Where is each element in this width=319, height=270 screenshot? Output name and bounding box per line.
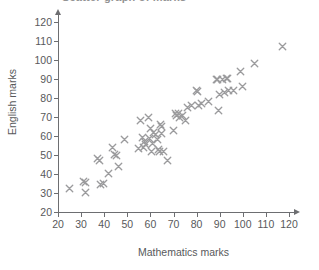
y-tick-label: 120 xyxy=(0,17,52,28)
x-tick-mark xyxy=(127,213,128,217)
x-tick-mark xyxy=(197,213,198,217)
y-tick-label: 40 xyxy=(0,169,52,180)
x-tick-mark xyxy=(289,213,290,217)
x-tick-label: 120 xyxy=(274,219,304,230)
chart-title-cropped: Scatter graph of marks xyxy=(62,0,186,3)
x-tick-mark xyxy=(174,213,175,217)
x-axis-line xyxy=(58,212,296,213)
x-tick-mark xyxy=(150,213,151,217)
x-tick-mark xyxy=(58,213,59,217)
y-axis-title: English marks xyxy=(6,42,18,162)
scatter-chart-figure: Scatter graph of marks 20304050607080901… xyxy=(0,0,319,270)
x-axis-title: Mathematics marks xyxy=(0,246,319,258)
y-axis-arrow-icon xyxy=(55,9,61,15)
y-tick-label: 20 xyxy=(0,207,52,218)
x-tick-mark xyxy=(220,213,221,217)
x-tick-mark xyxy=(104,213,105,217)
x-tick-mark xyxy=(266,213,267,217)
plot-area xyxy=(58,22,289,212)
x-axis-arrow-icon xyxy=(294,209,300,215)
y-tick-label: 30 xyxy=(0,188,52,199)
x-tick-mark xyxy=(243,213,244,217)
x-tick-mark xyxy=(81,213,82,217)
